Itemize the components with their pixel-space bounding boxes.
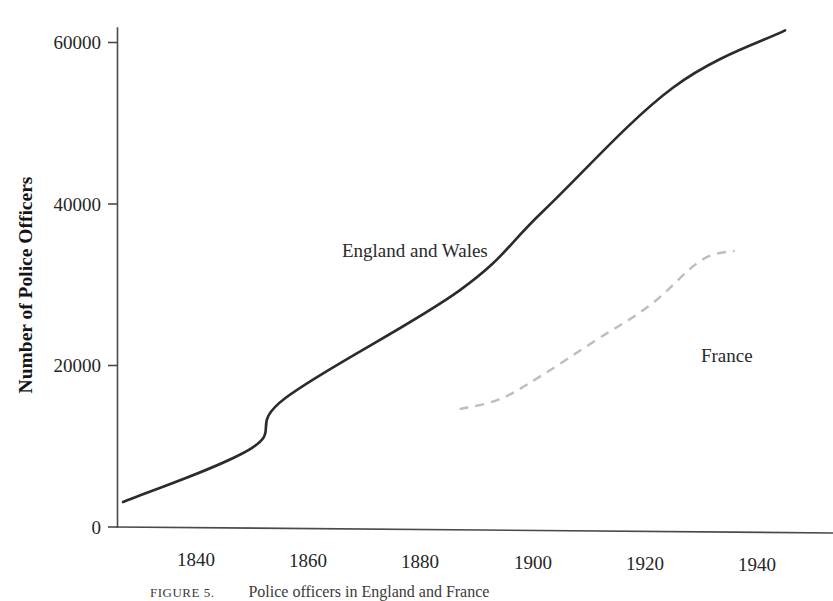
x-tick-label-1880: 1880 [401,551,439,572]
x-tick-label-1920: 1920 [626,553,664,574]
x-tick-label-1900: 1900 [514,552,552,573]
figure-caption-tag: FIGURE 5. [150,585,214,600]
figure-caption: FIGURE 5. Police officers in England and… [150,583,810,601]
y-tick-label-40000: 40000 [54,194,102,215]
y-axis-ticks [108,43,118,528]
x-axis-line [118,527,833,533]
x-tick-label-1860: 1860 [289,550,327,571]
series-line-england-and-wales [123,30,785,502]
x-tick-label-1940: 1940 [738,554,776,575]
series-line-france [460,251,735,409]
y-tick-label-0: 0 [92,517,102,538]
y-axis-title: Number of Police Officers [15,176,36,393]
y-tick-label-60000: 60000 [54,32,102,53]
figure-caption-text: Police officers in England and France [248,583,489,600]
y-tick-label-20000: 20000 [54,355,102,376]
x-tick-label-1840: 1840 [177,549,215,570]
series-annotation-france: France [701,345,753,366]
series-annotation-england-and-wales: England and Wales [342,240,488,261]
